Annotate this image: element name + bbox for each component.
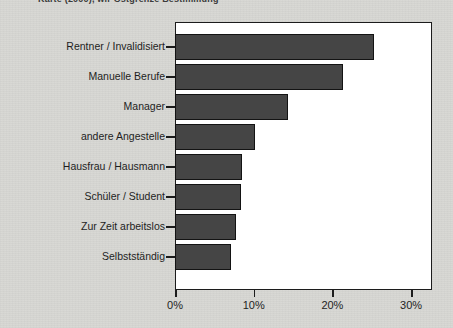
category-tick (166, 76, 175, 78)
x-tick-1 (254, 290, 256, 297)
x-tick-2 (332, 290, 334, 297)
category-label-3: andere Angestelle (81, 130, 165, 142)
bar-5 (175, 184, 241, 210)
plot-frame (175, 22, 432, 290)
bar-0 (175, 34, 374, 60)
bar-3 (175, 124, 255, 150)
bar-6 (175, 214, 236, 240)
category-label-5: Schüler / Student (84, 190, 165, 202)
category-label-1: Manuelle Berufe (89, 70, 165, 82)
category-tick (166, 256, 175, 258)
x-tick-label-3: 30% (400, 299, 422, 311)
bar-7 (175, 244, 231, 270)
bar-4 (175, 154, 242, 180)
category-tick (166, 166, 175, 168)
category-label-2: Manager (124, 100, 165, 112)
x-tick-0 (175, 290, 177, 297)
category-tick (166, 196, 175, 198)
category-tick (166, 136, 175, 138)
category-label-7: Selbstständig (102, 250, 165, 262)
x-tick-3 (411, 290, 413, 297)
category-tick (166, 106, 175, 108)
bars-container (176, 23, 431, 289)
x-tick-label-0: 0% (167, 299, 183, 311)
category-label-6: Zur Zeit arbeitslos (81, 220, 165, 232)
x-tick-label-1: 10% (243, 299, 265, 311)
category-label-0: Rentner / Invalidisiert (66, 40, 165, 52)
bar-2 (175, 94, 288, 120)
category-tick (166, 226, 175, 228)
caption-fragment: Karte (2000), wir Ostgrenze Bestimmung (38, 0, 219, 4)
category-tick (166, 46, 175, 48)
figure-container: Karte (2000), wir Ostgrenze Bestimmung R… (0, 0, 453, 328)
category-label-4: Hausfrau / Hausmann (63, 160, 165, 172)
bar-1 (175, 64, 343, 90)
x-tick-label-2: 20% (321, 299, 343, 311)
